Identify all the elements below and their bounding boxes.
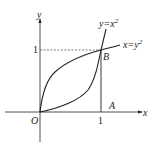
x-axis-label: x: [142, 107, 148, 118]
origin-label: O: [31, 115, 38, 126]
y-tick-1: 1: [33, 44, 38, 55]
curve-label-y-x2: y=x2: [98, 17, 119, 29]
x-tick-1: 1: [98, 115, 103, 126]
curve-label-x-y2: x=y2: [122, 38, 143, 50]
point-A-label: A: [108, 100, 116, 111]
curve-y-equals-x-squared: [40, 29, 106, 112]
graph-canvas: y x O 1 1 A B y=x2 x=y2: [0, 0, 156, 148]
point-B-label: B: [103, 51, 109, 62]
y-axis-label: y: [36, 9, 42, 20]
